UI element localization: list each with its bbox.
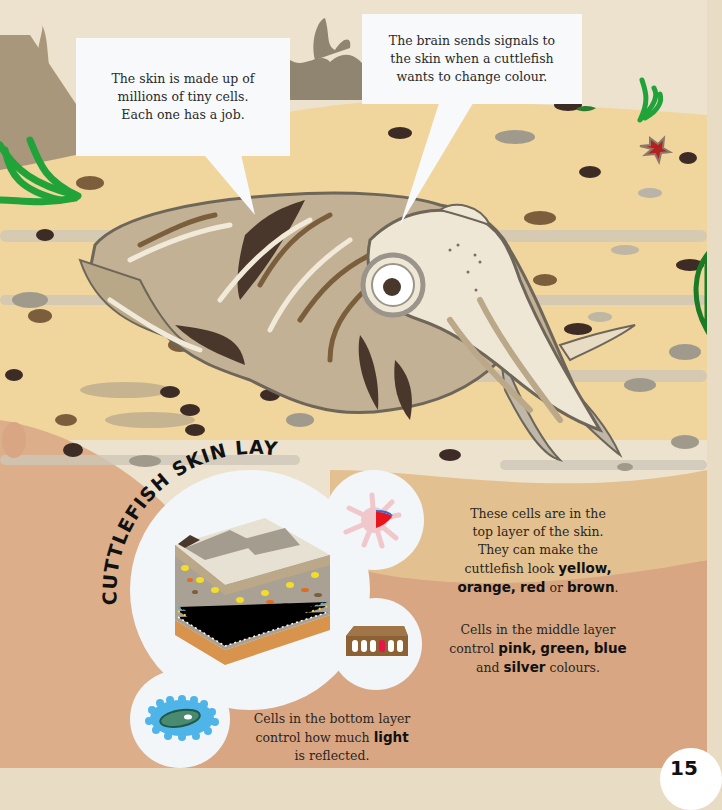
highlight-red: red bbox=[520, 579, 545, 595]
svg-text:CUTTLEFISH SKIN LAYERS: CUTTLEFISH SKIN LAYERS bbox=[0, 0, 280, 606]
highlight-yellow: yellow, bbox=[558, 560, 611, 576]
caption-text: Cells in the middle layer bbox=[461, 622, 616, 637]
caption-text: control how much bbox=[255, 730, 373, 745]
highlight-blue: blue bbox=[594, 640, 627, 656]
highlight-orange: orange, bbox=[457, 579, 516, 595]
highlight-brown: brown bbox=[567, 579, 615, 595]
caption-text: colours. bbox=[545, 660, 599, 675]
caption-top-layer: These cells are in the top layer of the … bbox=[428, 505, 648, 597]
caption-bottom-layer: Cells in the bottom layer control how mu… bbox=[242, 710, 422, 765]
caption-text: cuttlefish look bbox=[464, 561, 558, 576]
skin-layers-title: CUTTLEFISH SKIN LAYERS bbox=[0, 0, 280, 606]
page-number: 15 bbox=[660, 748, 722, 810]
caption-text: and bbox=[476, 660, 503, 675]
caption-text: Cells in the bottom layer bbox=[254, 711, 411, 726]
caption-text: These cells are in the bbox=[470, 506, 606, 521]
highlight-silver: silver bbox=[504, 659, 546, 675]
caption-text: They can make the bbox=[478, 542, 598, 557]
caption-text: or bbox=[545, 580, 566, 595]
highlight-light: light bbox=[374, 729, 409, 745]
caption-text: control bbox=[449, 641, 498, 656]
caption-middle-layer: Cells in the middle layer control pink, … bbox=[428, 621, 648, 677]
highlight-pink: pink, bbox=[498, 640, 536, 656]
highlight-green: green, bbox=[540, 640, 589, 656]
caption-text: is reflected. bbox=[295, 748, 370, 763]
caption-text: . bbox=[615, 580, 619, 595]
caption-text: top layer of the skin. bbox=[473, 524, 604, 539]
